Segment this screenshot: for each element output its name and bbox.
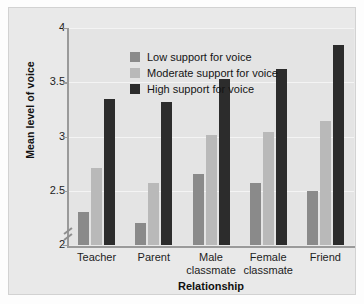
y-tick-mark — [63, 191, 67, 192]
chart-figure: Low support for voice Moderate support f… — [0, 0, 364, 304]
y-tick-mark — [63, 245, 67, 246]
bar — [320, 121, 331, 245]
x-tick-label-line: Friend — [288, 251, 362, 264]
legend-item-high: High support for voice — [130, 82, 340, 96]
legend: Low support for voice Moderate support f… — [130, 50, 340, 98]
y-tick-mark — [63, 82, 67, 83]
plot-area: Low support for voice Moderate support f… — [68, 28, 354, 245]
bar — [307, 191, 318, 245]
y-tick-label: 2 — [31, 239, 65, 250]
legend-swatch-high-icon — [130, 84, 140, 94]
y-axis-line — [67, 28, 69, 248]
y-axis-title: Mean level of voice — [24, 45, 36, 175]
y-tick-label: 3 — [31, 131, 65, 142]
y-tick-label: 4 — [31, 22, 65, 33]
y-tick-mark — [63, 28, 67, 29]
legend-label-high: High support for voice — [147, 84, 254, 95]
x-axis-line — [67, 246, 355, 248]
legend-label-moderate: Moderate support for voice — [147, 68, 278, 79]
y-tick-mark — [63, 137, 67, 138]
x-tick-label-line: classmate — [231, 264, 305, 277]
x-tick-label: Friend — [288, 251, 362, 264]
chart-panel: Low support for voice Moderate support f… — [8, 7, 356, 295]
legend-swatch-moderate-icon — [130, 68, 140, 78]
y-tick-label: 2.5 — [31, 185, 65, 196]
legend-swatch-low-icon — [130, 52, 140, 62]
legend-item-low: Low support for voice — [130, 50, 340, 64]
legend-label-low: Low support for voice — [147, 52, 252, 63]
y-tick-label: 3.5 — [31, 76, 65, 87]
legend-item-moderate: Moderate support for voice — [130, 66, 340, 80]
x-axis-title: Relationship — [68, 280, 354, 292]
